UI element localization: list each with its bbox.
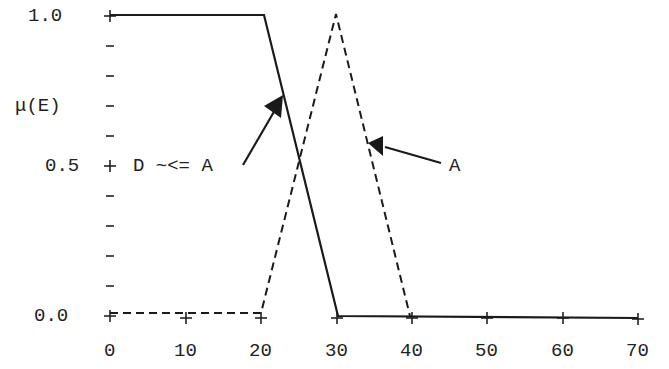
annotation-d-leq-a: D ~<= A xyxy=(133,157,213,176)
x-tick-label-30: 30 xyxy=(325,342,348,361)
arrow-d-annotation xyxy=(243,95,283,165)
y-tick-label-05: 0.5 xyxy=(45,157,79,176)
x-tick-label-70: 70 xyxy=(626,342,649,361)
x-tick-label-10: 10 xyxy=(174,342,197,361)
x-tick-label-60: 60 xyxy=(551,342,574,361)
y-tick-label-1: 1.0 xyxy=(28,7,62,26)
arrow-a-annotation xyxy=(368,136,441,163)
y-tick-label-0: 0.0 xyxy=(34,307,68,326)
x-tick-label-50: 50 xyxy=(475,342,498,361)
y-axis-label: μ(E) xyxy=(15,97,61,116)
x-tick-label-40: 40 xyxy=(400,342,423,361)
membership-chart xyxy=(0,0,669,369)
y-axis-ticks xyxy=(104,10,116,322)
x-tick-label-0: 0 xyxy=(104,342,115,361)
annotation-a: A xyxy=(449,157,460,176)
x-tick-label-20: 20 xyxy=(249,342,272,361)
